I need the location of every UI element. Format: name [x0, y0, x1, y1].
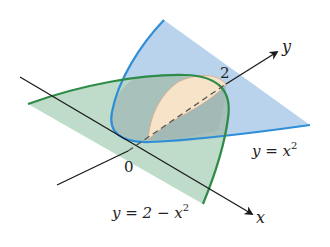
curve2-label-lhs: y = 2 − x	[111, 204, 183, 222]
curve2-label-exponent: 2	[183, 202, 189, 213]
curve1-label-lhs: y = x	[251, 142, 292, 160]
curve1-label-exponent: 2	[291, 140, 297, 151]
curve2-label: y = 2 − x2	[111, 202, 189, 222]
y-axis-lower	[57, 151, 128, 185]
y-axis-upper	[226, 52, 277, 84]
y-axis-label: y	[281, 37, 292, 56]
solid-region-diagram: 0 2 y x y = x2 y = 2 − x2	[0, 0, 330, 247]
origin-label: 0	[124, 158, 134, 176]
y-intercept-label: 2	[220, 64, 230, 82]
curve1-label: y = x2	[251, 140, 297, 160]
x-axis-label: x	[256, 208, 265, 227]
